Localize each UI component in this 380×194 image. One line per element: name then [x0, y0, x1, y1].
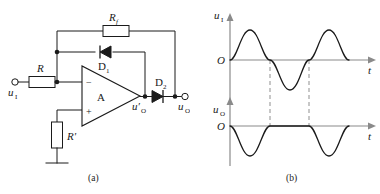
output-x-axis-arrow — [368, 123, 376, 130]
resistor-rprime-body — [52, 122, 63, 148]
junction-dot-output — [173, 94, 178, 99]
output-rectified-curve — [230, 126, 349, 156]
input-x-axis-label: t — [368, 64, 372, 76]
output-waveform-plot — [227, 97, 377, 166]
opamp-label: A — [97, 91, 105, 103]
opamp-inverting-input-sign: − — [86, 77, 92, 88]
junction-dot-d1-node — [55, 50, 60, 55]
input-signal-sublabel: I — [15, 93, 18, 101]
opamp-body — [82, 66, 140, 126]
resistor-rf-label: R — [108, 11, 116, 23]
output-y-axis-arrow — [227, 97, 234, 105]
input-y-axis-arrow — [227, 13, 234, 21]
diode2-label: D — [155, 76, 163, 88]
node-uoprime-sublabel: O — [141, 107, 146, 115]
input-y-axis-sublabel: I — [221, 16, 224, 24]
resistor-r-body — [29, 77, 55, 88]
input-x-axis-arrow — [368, 57, 376, 64]
waveform-svg: u I O t u O O t (b) — [190, 0, 380, 194]
junction-dot-inverting-node — [55, 80, 60, 85]
input-origin-label: O — [217, 54, 225, 66]
resistor-r-label: R — [36, 62, 44, 74]
diode1-sublabel: 1 — [106, 67, 110, 75]
input-y-axis-label: u — [214, 9, 220, 21]
output-y-axis-label: u — [213, 103, 219, 115]
bias-branch — [46, 110, 82, 163]
opamp-noninverting-input-sign: + — [86, 106, 92, 117]
waveform-plot-panel: u I O t u O O t (b) — [190, 0, 380, 194]
input-waveform-plot — [227, 13, 377, 100]
caption-a: (a) — [88, 173, 99, 184]
resistor-rprime-label: R' — [66, 130, 77, 142]
input-branch — [12, 77, 82, 88]
circuit-diagram-panel: R f D 1 R u I — [0, 0, 190, 194]
output-y-axis-sublabel: O — [220, 110, 225, 118]
diode1-label: D — [98, 60, 106, 72]
output-x-axis-label: t — [368, 130, 372, 142]
output-signal-label: u — [178, 100, 184, 112]
node-uoprime-label: u′ — [132, 100, 141, 112]
output-terminal — [182, 93, 188, 99]
input-signal-label: u — [8, 86, 14, 98]
diode2-triangle — [152, 91, 163, 103]
figure-container: R f D 1 R u I — [0, 0, 380, 194]
caption-b: (b) — [286, 173, 297, 184]
input-terminal — [12, 79, 18, 85]
diode1-triangle — [100, 46, 111, 58]
junction-dot-uo-prime — [143, 94, 148, 99]
resistor-rf-body — [103, 26, 129, 37]
diode2-sublabel: 2 — [163, 83, 167, 91]
output-origin-label: O — [217, 120, 225, 132]
resistor-rf-sublabel: f — [116, 18, 119, 26]
circuit-svg: R f D 1 R u I — [0, 0, 190, 194]
